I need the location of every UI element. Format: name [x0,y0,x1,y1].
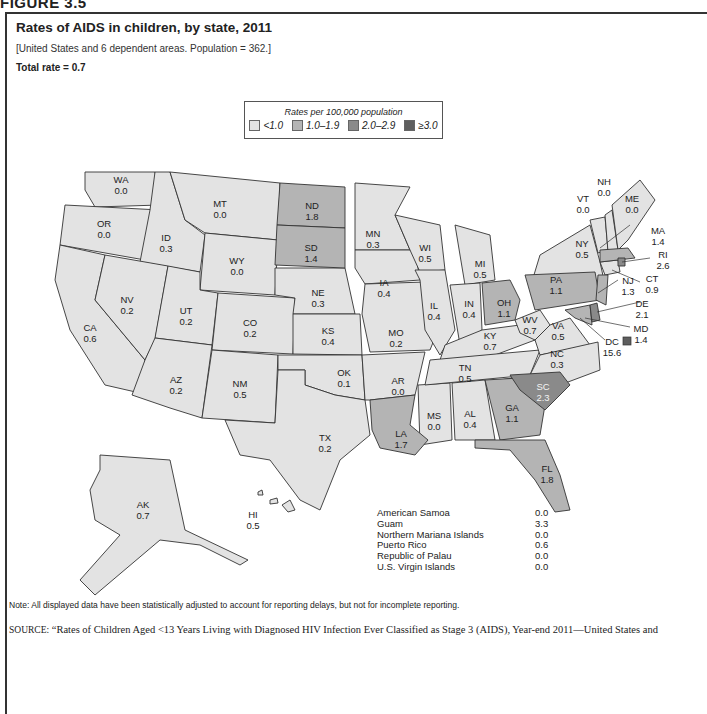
label-ca: CA0.6 [83,322,96,344]
label-nj: NJ1.3 [621,275,634,297]
label-nv: NV0.2 [120,294,133,316]
territories-table: American Samoa0.0 Guam3.3 Northern Maria… [377,508,548,573]
label-id: ID0.3 [159,232,172,254]
label-ky: KY0.7 [483,330,496,352]
dc-swatch-icon [623,337,631,345]
label-pa: PA1.1 [549,274,562,296]
label-mo: MO0.2 [388,327,403,349]
territory-row: U.S. Virgin Islands0.0 [377,562,548,573]
label-az: AZ0.2 [169,374,182,396]
state-ct [600,260,620,275]
label-ut: UT0.2 [179,305,192,327]
footnote: Note: All displayed data have been stati… [9,600,459,610]
label-nc: NC0.3 [550,348,564,370]
label-ak: AK0.7 [136,499,149,521]
state-ma [600,248,635,262]
label-ct: CT0.9 [645,273,658,295]
label-wv: WV0.7 [522,314,537,336]
label-nm: NM0.5 [233,378,248,400]
label-ga: GA1.1 [505,402,519,424]
label-hi: HI0.5 [246,509,259,531]
label-nh: NH0.0 [597,176,611,198]
label-nd: ND1.8 [305,200,319,222]
label-ny: NY0.5 [575,238,588,260]
source-citation: SOURCE: “Rates of Children Aged <13 Year… [9,624,658,635]
territory-row: Guam3.3 [377,519,548,530]
state-hi [282,500,295,512]
label-va: VA0.5 [551,320,564,342]
label-ks: KS0.4 [321,325,334,347]
label-ma: MA1.4 [651,225,665,247]
label-ar: AR0.0 [391,375,404,397]
label-tx: TX0.2 [318,432,331,454]
label-wi: WI0.5 [418,242,431,264]
state-fl [475,440,570,512]
label-wy: WY0.0 [229,255,244,277]
label-ok: OK0.1 [337,367,351,389]
state-ak [80,455,248,595]
label-sc: SC2.3 [536,381,549,403]
label-ri: RI2.6 [656,249,669,271]
label-oh: OH1.1 [497,297,511,319]
state-hi-3 [258,490,263,495]
label-me: ME0.0 [625,193,639,215]
label-ia: IA0.4 [377,277,390,299]
label-tn: TN0.5 [458,362,471,384]
label-wa: WA0.0 [114,174,129,196]
state-me [612,180,655,250]
label-de: DE2.1 [635,298,648,320]
label-ne: NE0.3 [311,287,324,309]
label-md: MD1.4 [634,323,649,345]
label-or: OR0.0 [97,218,111,240]
label-in: IN0.4 [462,298,475,320]
label-la: LA1.7 [394,428,407,450]
state-hi-2 [270,498,278,504]
label-fl: FL1.8 [540,463,553,485]
label-ms: MS0.0 [427,410,441,432]
label-mn: MN0.3 [366,228,381,250]
label-mi: MI0.5 [473,258,486,280]
label-al: AL0.4 [463,408,476,430]
label-co: CO0.2 [243,317,257,339]
label-mt: MT0.0 [213,198,227,220]
label-dc: DC15.6 [603,336,622,358]
label-sd: SD1.4 [304,242,317,264]
label-vt: VT0.0 [576,193,589,215]
label-il: IL0.4 [427,300,440,322]
